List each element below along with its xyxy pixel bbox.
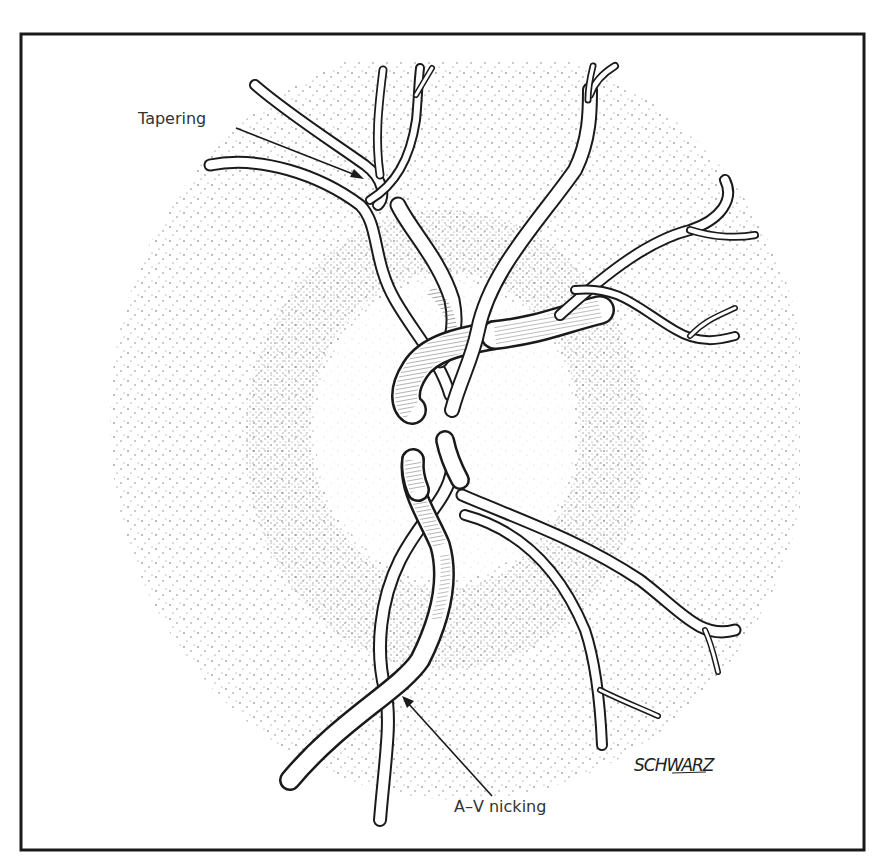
tapering-label: Tapering — [137, 109, 206, 128]
fundus-illustration: Tapering A–V nicking SCHWARZ — [0, 0, 892, 858]
av-nicking-label: A–V nicking — [454, 797, 546, 816]
